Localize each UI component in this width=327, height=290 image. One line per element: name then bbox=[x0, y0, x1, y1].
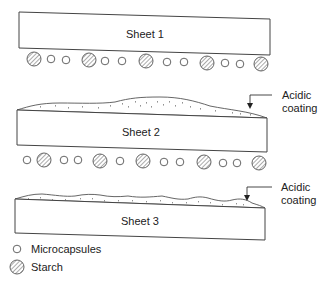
callout-text-line2: coating bbox=[282, 102, 317, 114]
microcapsule bbox=[60, 156, 68, 164]
sheet-3-label: Sheet 3 bbox=[121, 215, 159, 227]
microcapsule-legend-icon bbox=[13, 245, 21, 253]
microcapsule bbox=[74, 156, 82, 164]
starch-particle bbox=[93, 154, 107, 168]
legend-microcapsules-label: Microcapsules bbox=[31, 243, 102, 255]
starch-particle bbox=[136, 154, 150, 168]
legend-starch-label: Starch bbox=[31, 261, 63, 273]
microcapsule bbox=[101, 57, 109, 65]
microcapsule bbox=[176, 158, 184, 166]
microcapsule bbox=[118, 57, 126, 65]
sheet-2: Sheet 2 bbox=[17, 110, 267, 152]
starch-particle bbox=[254, 57, 268, 71]
diagram-canvas: Sheet 1 bbox=[0, 0, 327, 290]
starch-particle bbox=[37, 153, 51, 167]
microcapsule bbox=[47, 55, 55, 63]
sheet-2-callout: Acidic coating bbox=[247, 89, 317, 114]
starch-particle bbox=[139, 54, 153, 68]
microcapsule bbox=[221, 59, 229, 67]
microcapsule bbox=[233, 159, 241, 167]
microcapsule bbox=[180, 58, 188, 66]
sheet-2-underside-particles bbox=[23, 153, 266, 170]
microcapsule bbox=[62, 56, 70, 64]
sheet-1: Sheet 1 bbox=[19, 12, 270, 55]
starch-particle bbox=[252, 156, 266, 170]
microcapsule bbox=[163, 58, 171, 66]
microcapsule bbox=[236, 60, 244, 68]
callout-text-line1: Acidic bbox=[282, 89, 312, 101]
starch-legend-icon bbox=[10, 260, 24, 274]
starch-particle bbox=[27, 52, 41, 66]
microcapsule bbox=[23, 156, 31, 164]
microcapsule bbox=[116, 157, 124, 165]
sheet-1-label: Sheet 1 bbox=[126, 28, 164, 40]
starch-particle bbox=[197, 155, 211, 169]
microcapsule bbox=[160, 158, 168, 166]
arrow-down-icon bbox=[247, 103, 253, 109]
sheet-1-underside-particles bbox=[27, 52, 268, 71]
callout-text-line2: coating bbox=[281, 194, 316, 206]
callout-text-line1: Acidic bbox=[281, 181, 311, 193]
callout-leader-line bbox=[247, 187, 272, 196]
microcapsule bbox=[219, 159, 227, 167]
callout-leader-line bbox=[250, 95, 272, 104]
sheet-2-label: Sheet 2 bbox=[122, 126, 160, 138]
starch-particle bbox=[82, 53, 96, 67]
legend: Microcapsules Starch bbox=[10, 243, 102, 274]
sheet-3-callout: Acidic coating bbox=[244, 181, 316, 206]
starch-particle bbox=[200, 56, 214, 70]
